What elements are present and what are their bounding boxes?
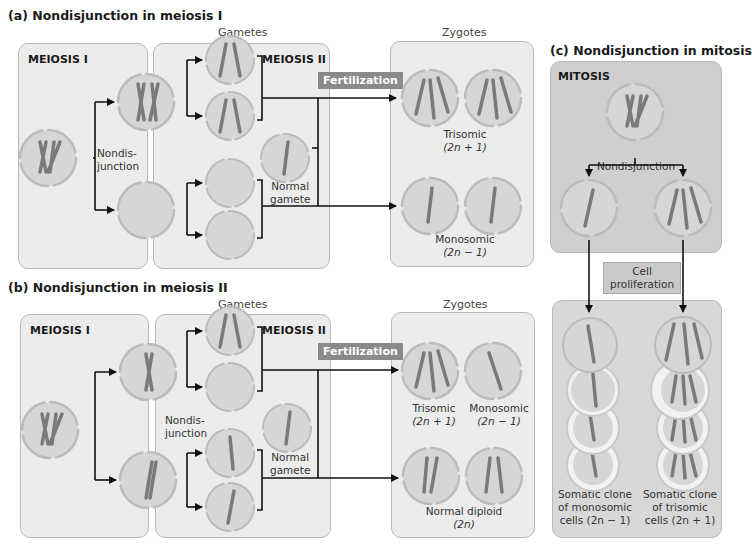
panel-a-parent-cell [20, 130, 76, 186]
